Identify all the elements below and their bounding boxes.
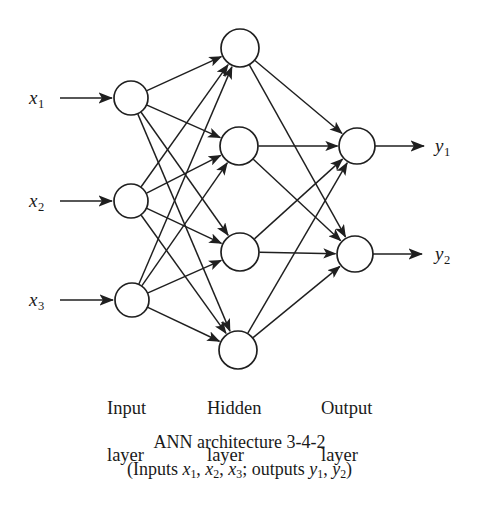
output-label-y2: y2 — [435, 244, 450, 266]
edge-input-2-to-hidden-1 — [141, 65, 228, 187]
edge-input-1-to-hidden-1 — [147, 57, 221, 91]
caption-line-2: (Inputs x1, x2, x3; outputs y1, y2) — [0, 457, 479, 483]
input-label-x3-sub: 3 — [37, 299, 44, 313]
edge-hidden-3-to-output-1 — [254, 159, 342, 239]
node-layer — [114, 29, 375, 369]
output-label-y1: y1 — [435, 136, 450, 158]
caption-prefix: (Inputs — [127, 459, 183, 479]
input-label-x1-sub: 1 — [37, 97, 44, 111]
neuron-hidden-2 — [220, 127, 258, 165]
edge-input-3-to-hidden-4 — [148, 307, 220, 341]
layer-label-input-line1: Input — [107, 397, 146, 420]
caption-sep-1: , — [196, 459, 205, 479]
neuron-output-1 — [339, 128, 375, 164]
input-label-x3: x3 — [29, 290, 44, 312]
edge-input-3-to-hidden-3 — [148, 260, 221, 293]
edge-layer — [138, 57, 347, 342]
output-label-y2-sub: 2 — [443, 253, 450, 267]
neuron-output-2 — [337, 236, 373, 272]
caption-sep-2: , — [219, 459, 228, 479]
caption-sep-3: , — [323, 459, 332, 479]
neuron-input-2 — [114, 184, 148, 218]
caption-suffix: ) — [346, 459, 352, 479]
edge-input-1-to-hidden-4 — [138, 114, 230, 331]
caption-y2: y — [332, 459, 340, 479]
edge-hidden-3-to-output-2 — [259, 252, 335, 253]
ann-architecture-figure: x1 x2 x3 y1 y2 Input layer Hidden layer … — [0, 0, 479, 506]
input-label-x2: x2 — [29, 191, 44, 213]
edge-hidden-4-to-output-1 — [248, 163, 347, 333]
edge-input-3-to-hidden-2 — [142, 163, 227, 286]
input-label-x2-sub: 2 — [37, 200, 44, 214]
caption-mid: ; outputs — [242, 459, 309, 479]
neuron-hidden-1 — [221, 29, 259, 67]
caption-line-1: ANN architecture 3-4-2 — [0, 430, 479, 454]
neuron-hidden-3 — [221, 233, 259, 271]
neuron-input-1 — [114, 81, 148, 115]
input-label-x1: x1 — [29, 88, 44, 110]
edge-input-2-to-hidden-4 — [141, 215, 226, 333]
output-label-y1-sub: 1 — [443, 145, 450, 159]
layer-label-hidden-line1: Hidden — [207, 397, 261, 420]
layer-label-output-line1: Output — [321, 397, 372, 420]
neuron-input-3 — [115, 283, 149, 317]
neuron-hidden-4 — [219, 331, 257, 369]
edge-hidden-1-to-output-2 — [250, 65, 346, 237]
